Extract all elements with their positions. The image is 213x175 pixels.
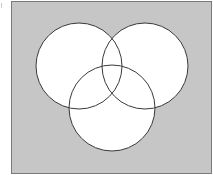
venn-diagram [0, 0, 213, 175]
